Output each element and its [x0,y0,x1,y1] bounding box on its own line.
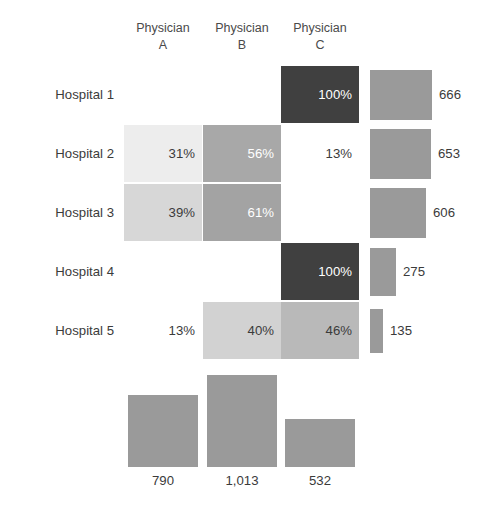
row-label-4: Hospital 4 [16,263,114,281]
column-header-2: PhysicianB [203,20,281,54]
column-header-line: B [203,37,281,54]
matrix-cell-r1-c3[interactable]: 100% [281,66,359,123]
matrix-cell-value: 46% [326,302,352,359]
matrix-cell-inner [124,243,202,300]
matrix-cell-r3-c1[interactable]: 39% [124,184,202,241]
matrix-cell-inner: 46% [281,302,359,359]
row-total-bar-1[interactable] [370,70,432,120]
column-total-bar-3[interactable] [285,419,355,467]
row-label-2: Hospital 2 [16,145,114,163]
row-label-5: Hospital 5 [16,322,114,340]
matrix-cell-inner: 13% [281,125,359,182]
heatmap-matrix-chart: PhysicianAPhysicianBPhysicianCHospital 1… [0,0,484,524]
matrix-cell-inner: 100% [281,243,359,300]
matrix-cell-value: 56% [248,125,274,182]
row-total-bar-4[interactable] [370,248,396,296]
matrix-cell-inner [203,243,281,300]
row-total-label-4: 275 [403,264,425,280]
column-total-label-1: 790 [124,473,202,489]
column-header-line: A [124,37,202,54]
matrix-cell-r1-c2[interactable] [203,66,281,123]
column-total-label-2: 1,013 [203,473,281,489]
matrix-cell-r2-c3[interactable]: 13% [281,125,359,182]
matrix-cell-inner [281,184,359,241]
matrix-cell-value: 61% [248,184,274,241]
column-total-label-3: 532 [281,473,359,489]
matrix-cell-inner: 39% [124,184,202,241]
row-total-bar-3[interactable] [370,188,426,238]
column-header-3: PhysicianC [281,20,359,54]
row-total-bar-5[interactable] [370,309,383,353]
column-header-line: Physician [281,20,359,37]
matrix-cell-inner: 40% [203,302,281,359]
matrix-cell-r2-c1[interactable]: 31% [124,125,202,182]
matrix-cell-inner: 100% [281,66,359,123]
row-label-3: Hospital 3 [16,204,114,222]
matrix-cell-r4-c3[interactable]: 100% [281,243,359,300]
column-header-1: PhysicianA [124,20,202,54]
row-total-label-1: 666 [439,87,461,103]
matrix-cell-r4-c2[interactable] [203,243,281,300]
column-header-line: Physician [203,20,281,37]
row-total-label-3: 606 [433,205,455,221]
row-total-label-2: 653 [438,146,460,162]
matrix-cell-inner [203,66,281,123]
matrix-cell-value: 40% [248,302,274,359]
matrix-cell-r2-c2[interactable]: 56% [203,125,281,182]
matrix-cell-inner: 56% [203,125,281,182]
matrix-cell-inner: 61% [203,184,281,241]
matrix-cell-value: 13% [169,302,195,359]
matrix-cell-r5-c3[interactable]: 46% [281,302,359,359]
matrix-cell-r5-c2[interactable]: 40% [203,302,281,359]
matrix-cell-r5-c1[interactable]: 13% [124,302,202,359]
column-header-line: C [281,37,359,54]
row-label-1: Hospital 1 [16,86,114,104]
matrix-cell-r4-c1[interactable] [124,243,202,300]
matrix-cell-value: 31% [169,125,195,182]
matrix-cell-inner: 31% [124,125,202,182]
row-total-bar-2[interactable] [370,129,431,179]
matrix-cell-value: 100% [318,243,352,300]
matrix-cell-value: 13% [326,125,352,182]
column-total-bar-1[interactable] [128,395,198,467]
matrix-cell-inner: 13% [124,302,202,359]
matrix-cell-value: 39% [169,184,195,241]
column-total-bar-2[interactable] [207,375,277,467]
column-header-line: Physician [124,20,202,37]
matrix-cell-inner [124,66,202,123]
matrix-cell-r1-c1[interactable] [124,66,202,123]
matrix-cell-r3-c3[interactable] [281,184,359,241]
matrix-cell-value: 100% [318,66,352,123]
matrix-cell-r3-c2[interactable]: 61% [203,184,281,241]
row-total-label-5: 135 [390,323,412,339]
